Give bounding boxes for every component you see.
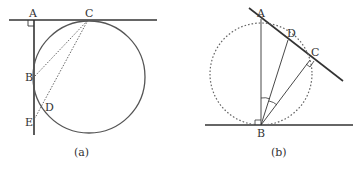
panel-a: A C B D E (a) bbox=[9, 7, 157, 159]
label-d: D bbox=[287, 27, 296, 40]
label-a: A bbox=[28, 7, 38, 20]
label-e: E bbox=[25, 116, 33, 129]
label-c: C bbox=[311, 46, 319, 59]
caption-a: (a) bbox=[74, 146, 89, 159]
label-c: C bbox=[85, 7, 93, 20]
label-a: A bbox=[256, 7, 266, 20]
label-b: B bbox=[257, 127, 265, 140]
segment-bc bbox=[261, 60, 310, 125]
label-b: B bbox=[25, 71, 33, 84]
geometry-figure: A C B D E (a) A D C B (b) bbox=[0, 0, 353, 169]
panel-b: A D C B (b) bbox=[205, 7, 353, 159]
segment-ce bbox=[35, 20, 88, 118]
right-angle-marker bbox=[28, 20, 34, 26]
circle bbox=[33, 21, 145, 133]
caption-b: (b) bbox=[271, 146, 287, 159]
label-d: D bbox=[45, 101, 54, 114]
angle-arc-1 bbox=[261, 98, 270, 99]
segment-bd bbox=[261, 40, 288, 125]
angle-arc-2 bbox=[269, 101, 277, 105]
